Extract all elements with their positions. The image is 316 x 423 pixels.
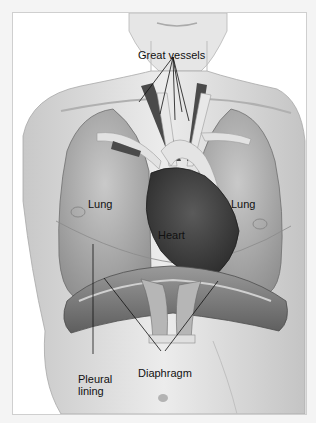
thorax-illustration: [13, 13, 306, 414]
label-pleural-lining: Pleural lining: [78, 373, 112, 397]
label-heart: Heart: [158, 229, 185, 241]
illustration-panel: Great vessels Lung Lung Heart Pleural li…: [12, 12, 307, 415]
navel: [158, 394, 168, 402]
label-great-vessels: Great vessels: [138, 49, 205, 61]
label-diaphragm: Diaphragm: [138, 367, 192, 379]
label-lung-left: Lung: [88, 198, 112, 210]
label-lung-right: Lung: [231, 198, 255, 210]
